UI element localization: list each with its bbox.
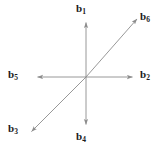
vector-label-b4-subscript: 4	[82, 135, 86, 144]
vector-label-b1-subscript: 1	[82, 7, 86, 16]
vector-label-b3: b3	[8, 123, 18, 134]
vector-arrow-b3	[32, 77, 87, 132]
vector-diagram-figure: b1 b6 b5 b2 b3 b4	[0, 0, 168, 150]
vector-label-b6: b6	[140, 11, 150, 22]
vector-label-b4: b4	[76, 131, 86, 142]
vector-arrow-b6	[86, 19, 137, 77]
vector-label-b2: b2	[140, 69, 150, 80]
vector-label-b6-subscript: 6	[146, 15, 150, 24]
vector-label-b5-subscript: 5	[14, 73, 18, 82]
vector-label-b3-subscript: 3	[14, 127, 18, 136]
vector-label-b1: b1	[76, 3, 86, 14]
vector-label-b2-subscript: 2	[146, 73, 150, 82]
vector-label-b5: b5	[8, 69, 18, 80]
